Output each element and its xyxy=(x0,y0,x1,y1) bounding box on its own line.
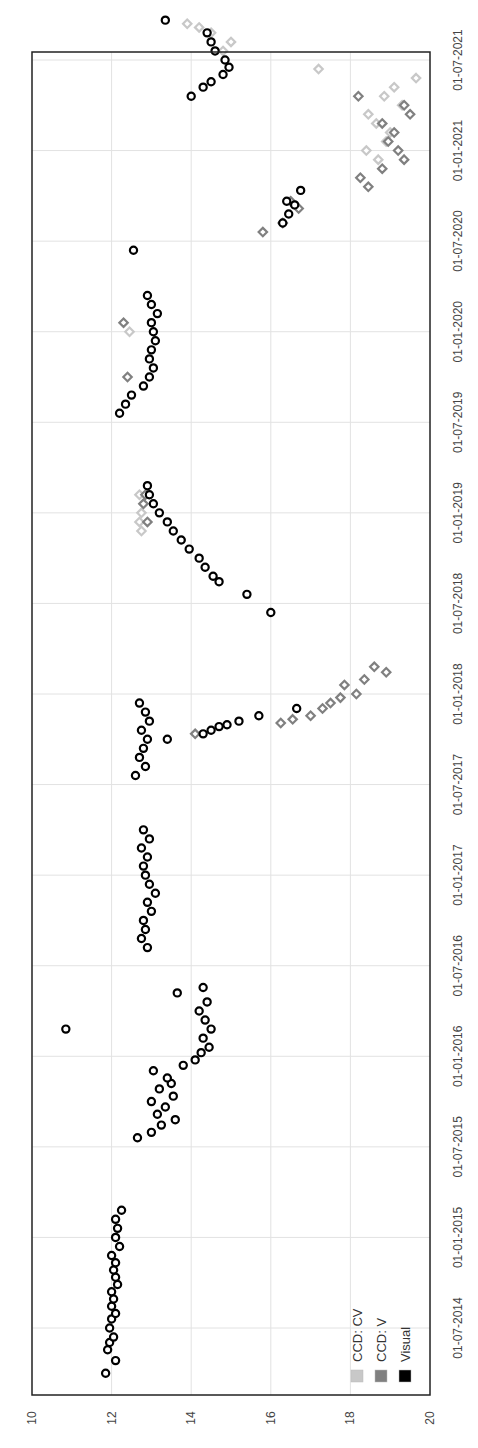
visual-observation-point xyxy=(208,38,215,45)
visual-observation-point xyxy=(142,872,149,879)
ccd-v-observation-point xyxy=(318,704,326,712)
ccd-v-observation-point xyxy=(139,500,147,508)
visual-observation-point xyxy=(196,1007,203,1014)
visual-observation-point xyxy=(112,1357,119,1364)
visual-observation-point xyxy=(108,1303,115,1310)
date-tick-label: 01-07-2014 xyxy=(451,1297,465,1359)
visual-observation-point xyxy=(146,491,153,498)
visual-observation-point xyxy=(112,1310,119,1317)
ccd-v-observation-point xyxy=(394,146,402,154)
ccd-cv-observation-point xyxy=(364,110,372,118)
ccd-v-observation-point xyxy=(288,715,296,723)
visual-observation-point xyxy=(104,1346,111,1353)
visual-observation-point xyxy=(202,1016,209,1023)
legend-item-ccd-cv-swatch xyxy=(351,1370,363,1382)
ccd-v-observation-point xyxy=(378,119,386,127)
ccd-cv-observation-point xyxy=(219,47,227,55)
ccd-cv-observation-point xyxy=(380,92,388,100)
ccd-v-observation-point xyxy=(406,110,414,118)
mag-tick-label: 10 xyxy=(25,1411,39,1425)
date-tick-label: 01-07-2021 xyxy=(451,29,465,91)
visual-observation-point xyxy=(208,727,215,734)
visual-observation-point xyxy=(148,1129,155,1136)
date-tick-label: 01-01-2018 xyxy=(451,663,465,725)
mag-tick-label: 16 xyxy=(264,1411,278,1425)
visual-observation-point xyxy=(221,56,228,63)
visual-observation-point xyxy=(130,247,137,254)
visual-observation-point xyxy=(144,482,151,489)
visual-observation-point xyxy=(146,373,153,380)
legend-item-visual-swatch xyxy=(399,1370,411,1382)
visual-observation-point xyxy=(235,718,242,725)
visual-observation-point xyxy=(204,998,211,1005)
visual-observation-point xyxy=(142,926,149,933)
ccd-cv-observation-point xyxy=(137,509,145,517)
legend-item-ccd-v-label: CCD: V xyxy=(374,1318,389,1362)
visual-observation-point xyxy=(110,1266,117,1273)
visual-observation-point xyxy=(285,210,292,217)
visual-observation-point xyxy=(140,862,147,869)
ccd-v-observation-point xyxy=(336,693,344,701)
visual-observation-point xyxy=(200,1035,207,1042)
ccd-cv-observation-point xyxy=(183,20,191,28)
date-tick-label: 01-01-2020 xyxy=(451,301,465,363)
ccd-cv-observation-point xyxy=(195,23,203,31)
ccd-v-observation-point xyxy=(356,174,364,182)
ccd-v-observation-point xyxy=(360,675,368,683)
visual-observation-point xyxy=(219,71,226,78)
visual-observation-point xyxy=(283,198,290,205)
visual-observation-point xyxy=(136,699,143,706)
visual-observation-point xyxy=(225,64,232,71)
visual-observation-point xyxy=(112,1259,119,1266)
visual-observation-point xyxy=(174,989,181,996)
date-axis-ticks: 01-07-201401-01-201501-07-201501-01-2016… xyxy=(451,29,465,1359)
visual-observation-point xyxy=(156,509,163,516)
visual-observation-point xyxy=(202,564,209,571)
ccd-v-observation-point xyxy=(123,373,131,381)
visual-observation-point xyxy=(150,1067,157,1074)
visual-observation-point xyxy=(148,346,155,353)
data-points xyxy=(62,17,420,1377)
visual-observation-point xyxy=(142,709,149,716)
visual-observation-point xyxy=(188,93,195,100)
ccd-v-observation-point xyxy=(277,719,285,727)
ccd-v-observation-point xyxy=(119,318,127,326)
visual-observation-point xyxy=(162,17,169,24)
visual-observation-point xyxy=(144,944,151,951)
visual-observation-point xyxy=(110,1333,117,1340)
visual-observation-point xyxy=(102,1370,109,1377)
visual-observation-point xyxy=(148,319,155,326)
visual-observation-point xyxy=(112,1274,119,1281)
mag-tick-label: 18 xyxy=(343,1411,357,1425)
visual-observation-point xyxy=(170,1093,177,1100)
date-tick-label: 01-07-2018 xyxy=(451,572,465,634)
visual-observation-point xyxy=(215,723,222,730)
visual-observation-point xyxy=(138,727,145,734)
visual-observation-point xyxy=(138,935,145,942)
light-curve-chart: 101214161820 01-07-201401-01-201501-07-2… xyxy=(0,0,478,1448)
ccd-v-observation-point xyxy=(382,668,390,676)
visual-observation-point xyxy=(267,609,274,616)
mag-tick-label: 20 xyxy=(423,1411,437,1425)
visual-observation-point xyxy=(293,705,300,712)
visual-observation-point xyxy=(170,527,177,534)
visual-observation-point xyxy=(114,1281,121,1288)
visual-observation-point xyxy=(128,392,135,399)
ccd-v-observation-point xyxy=(352,690,360,698)
visual-observation-point xyxy=(144,292,151,299)
visual-observation-point xyxy=(279,219,286,226)
ccd-v-observation-point xyxy=(306,712,314,720)
visual-observation-point xyxy=(112,1234,119,1241)
date-tick-label: 01-07-2019 xyxy=(451,391,465,453)
visual-observation-point xyxy=(154,310,161,317)
visual-observation-point xyxy=(138,844,145,851)
visual-observation-point xyxy=(198,1049,205,1056)
visual-observation-point xyxy=(144,899,151,906)
visual-observation-point xyxy=(116,1243,123,1250)
visual-observation-point xyxy=(108,1288,115,1295)
visual-observation-point xyxy=(178,536,185,543)
visual-observation-point xyxy=(140,917,147,924)
visual-observation-point xyxy=(150,364,157,371)
visual-observation-point xyxy=(146,355,153,362)
visual-observation-point xyxy=(206,1044,213,1051)
